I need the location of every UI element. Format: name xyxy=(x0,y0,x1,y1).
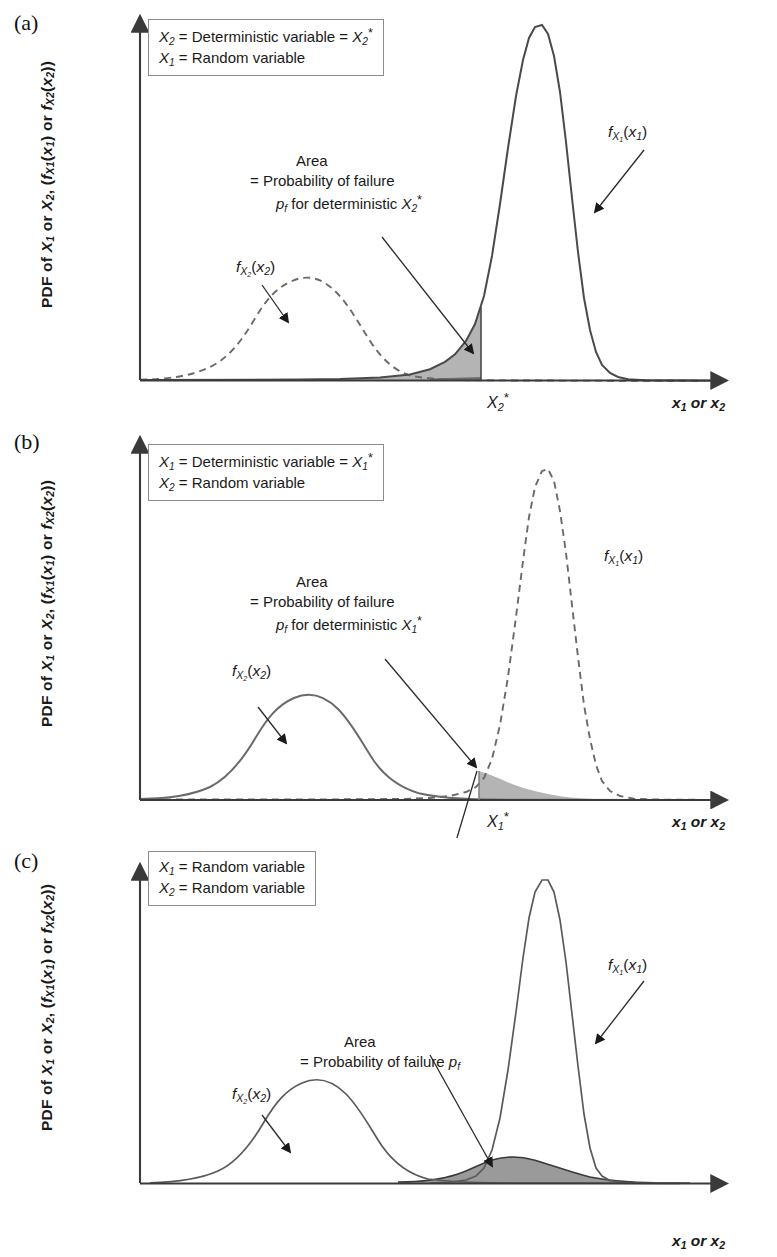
curve-fx1-c xyxy=(430,880,690,1183)
annotation-area-a: Area = Probability of failure pf for det… xyxy=(250,151,422,216)
curve-label-fx2-a: fX2(x2) xyxy=(236,258,275,279)
x-axis-label-b: x1 or x2 xyxy=(672,813,725,832)
legend-line-b1: X1 = Deterministic variable = X1* xyxy=(159,450,373,473)
annotation-line-a2: = Probability of failure xyxy=(250,171,422,191)
panel-label-b: (b) xyxy=(14,429,40,455)
legend-box-a: X2 = Deterministic variable = X2* X1 = R… xyxy=(148,19,384,76)
leader-fx2-b xyxy=(258,707,286,743)
annotation-line-a3: pf for deterministic X2* xyxy=(250,191,422,216)
leader-area-a xyxy=(382,237,473,353)
curve-fx1-a xyxy=(140,25,720,381)
legend-box-b: X1 = Deterministic variable = X1* X2 = R… xyxy=(148,444,384,501)
annotation-area-c: Area = Probability of failure pf xyxy=(300,1032,460,1074)
x-axis-label-c: x1 or x2 xyxy=(672,1232,725,1251)
legend-line-c1: X1 = Random variable xyxy=(159,857,305,878)
panel-a: (a) PDF of X1 or X2, (fX1(x1) or fX2(x2)… xyxy=(0,0,777,419)
annotation-area-b: Area = Probability of failure pf for det… xyxy=(250,572,422,637)
curve-fx2-c xyxy=(150,1080,680,1184)
legend-line-c2: X2 = Random variable xyxy=(159,878,305,899)
curve-fx2-a xyxy=(140,278,700,381)
figure-root: (a) PDF of X1 or X2, (fX1(x1) or fX2(x2)… xyxy=(0,0,777,1257)
annotation-line-b1: Area xyxy=(250,572,422,592)
leader-fx1-a xyxy=(595,150,644,212)
annotation-line-c1: Area xyxy=(300,1032,460,1052)
panel-label-c: (c) xyxy=(14,848,38,874)
leader-area-b xyxy=(385,771,477,838)
annotation-line-b2: = Probability of failure xyxy=(250,592,422,612)
annotation-line-c2: = Probability of failure pf xyxy=(300,1052,460,1074)
legend-line-a2: X1 = Random variable xyxy=(159,48,373,69)
y-axis-label-b: PDF of X1 or X2, (fX1(x1) or fX2(x2)) xyxy=(38,438,57,768)
tick-label-x2star: X2* xyxy=(487,390,509,413)
panel-label-a: (a) xyxy=(14,10,38,36)
leader-fx2-c xyxy=(262,1115,290,1152)
x-axis-label-a: x1 or x2 xyxy=(672,394,725,413)
shaded-area-b xyxy=(479,771,640,800)
legend-line-b2: X2 = Random variable xyxy=(159,473,373,494)
curve-label-fx2-b: fX2(x2) xyxy=(232,662,271,683)
legend-line-a1: X2 = Deterministic variable = X2* xyxy=(159,25,373,48)
annotation-line-a1: Area xyxy=(250,151,422,171)
y-axis-label-c: PDF of X1 or X2, (fX1(x1) or fX2(x2)) xyxy=(38,842,57,1172)
curve-label-fx1-c: fX1(x1) xyxy=(608,956,647,977)
curve-label-fx1-a: fX1(x1) xyxy=(608,123,647,144)
leader-fx1-c xyxy=(596,981,644,1043)
curve-fx2-b xyxy=(140,695,705,800)
tick-label-x1star: X1* xyxy=(487,809,509,832)
curve-label-fx1-b: fX1(x1) xyxy=(604,547,643,568)
annotation-line-b3: pf for deterministic X1* xyxy=(250,612,422,637)
y-axis-label-a: PDF of X1 or X2, (fX1(x1) or fX2(x2)) xyxy=(38,19,57,349)
legend-box-c: X1 = Random variable X2 = Random variabl… xyxy=(148,851,316,906)
curve-label-fx2-c: fX2(x2) xyxy=(232,1085,271,1106)
